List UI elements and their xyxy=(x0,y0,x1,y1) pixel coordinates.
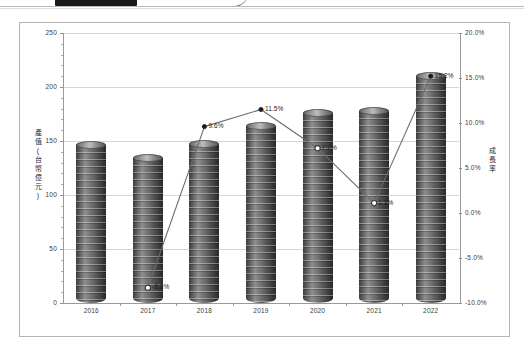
y-axis-left-minor-tick xyxy=(61,163,63,164)
x-axis-label-2020: 2020 xyxy=(296,307,340,314)
title-char: 長 xyxy=(486,155,498,164)
title-char: 幣 xyxy=(32,164,44,173)
y-axis-left-minor-tick xyxy=(61,184,63,185)
y-axis-left-tick xyxy=(60,195,63,196)
y-axis-left-tick xyxy=(60,141,63,142)
horizontal-rule xyxy=(0,6,524,7)
title-char: 值 xyxy=(32,137,44,146)
y-axis-right-tick-label: 0.0% xyxy=(465,209,505,216)
data-label-2019: 11.5% xyxy=(265,105,283,112)
y-axis-left-tick-label: 200 xyxy=(23,83,57,90)
x-axis-tick xyxy=(289,303,290,306)
x-axis-label-2017: 2017 xyxy=(126,307,170,314)
data-label-2021: 1.1% xyxy=(378,199,393,206)
y-axis-left-tick xyxy=(60,249,63,250)
y-axis-left-minor-tick xyxy=(61,152,63,153)
title-char: ) xyxy=(32,191,44,200)
data-label-2020: 7.2% xyxy=(322,144,337,151)
y-axis-left-minor-tick xyxy=(61,119,63,120)
x-axis-tick xyxy=(346,303,347,306)
x-axis-tick xyxy=(120,303,121,306)
x-axis-label-2016: 2016 xyxy=(69,307,113,314)
y-axis-left-minor-tick xyxy=(61,206,63,207)
y-axis-left-minor-tick xyxy=(61,98,63,99)
y-axis-right-tick-label: 20.0% xyxy=(465,29,505,36)
horizontal-rule-shadow xyxy=(0,8,524,9)
y-axis-right-tick xyxy=(459,303,462,304)
y-axis-left-minor-tick xyxy=(61,238,63,239)
x-axis-label-2019: 2019 xyxy=(239,307,283,314)
x-axis-tick xyxy=(176,303,177,306)
y-axis-left-minor-tick xyxy=(61,281,63,282)
title-char: 產 xyxy=(32,128,44,137)
y-axis-left-minor-tick xyxy=(61,292,63,293)
y-axis-left-minor-tick xyxy=(61,130,63,131)
y-axis-left-minor-tick xyxy=(61,271,63,272)
y-axis-left-minor-tick xyxy=(61,109,63,110)
y-axis-right-tick xyxy=(459,78,462,79)
y-axis-right-tick xyxy=(459,123,462,124)
title-char: 元 xyxy=(32,182,44,191)
y-axis-left-tick xyxy=(60,87,63,88)
y-axis-right-title: 成長率 xyxy=(486,146,498,173)
y-axis-left-tick-label: 50 xyxy=(23,245,57,252)
title-char: 成 xyxy=(486,146,498,155)
title-char: 億 xyxy=(32,173,44,182)
data-label-2018: 9.6% xyxy=(208,122,223,129)
y-axis-right-tick xyxy=(459,213,462,214)
y-axis-right-tick-label: 15.0% xyxy=(465,74,505,81)
x-axis-tick xyxy=(233,303,234,306)
title-char: 率 xyxy=(486,164,498,173)
y-axis-left-minor-tick xyxy=(61,173,63,174)
y-axis-left-tick-label: 250 xyxy=(23,29,57,36)
gridline xyxy=(63,303,459,304)
chart-screenshot: -8.3%9.6%11.5%7.2%1.1%15.2% 250200150100… xyxy=(0,0,524,352)
data-label-layer: -8.3%9.6%11.5%7.2%1.1%15.2% xyxy=(63,33,459,303)
data-label-2017: -8.3% xyxy=(152,283,169,290)
x-axis-label-2018: 2018 xyxy=(182,307,226,314)
y-axis-right-tick-label: 10.0% xyxy=(465,119,505,126)
title-char: 台 xyxy=(32,155,44,164)
y-axis-left-minor-tick xyxy=(61,55,63,56)
y-axis-left-tick xyxy=(60,33,63,34)
y-axis-right-tick-label: -5.0% xyxy=(465,254,505,261)
x-axis-tick xyxy=(402,303,403,306)
y-axis-left-title: 產值(台幣億元) xyxy=(32,128,44,200)
y-axis-left-minor-tick xyxy=(61,65,63,66)
y-axis-left-tick-label: 0 xyxy=(23,299,57,306)
y-axis-left-minor-tick xyxy=(61,227,63,228)
y-axis-left-minor-tick xyxy=(61,217,63,218)
top-cropped-ui-strip xyxy=(0,0,524,16)
y-axis-left-tick xyxy=(60,303,63,304)
y-axis-left-minor-tick xyxy=(61,44,63,45)
x-axis-label-2021: 2021 xyxy=(352,307,396,314)
y-axis-right-tick-label: -10.0% xyxy=(465,299,505,306)
y-axis-left-minor-tick xyxy=(61,260,63,261)
y-axis-right-tick-label: 5.0% xyxy=(465,164,505,171)
title-char: ( xyxy=(32,146,44,155)
y-axis-right-tick xyxy=(459,258,462,259)
x-axis-label-2022: 2022 xyxy=(409,307,453,314)
y-axis-right-tick xyxy=(459,33,462,34)
y-axis-right-tick xyxy=(459,168,462,169)
y-axis-left-minor-tick xyxy=(61,76,63,77)
data-label-2022: 15.2% xyxy=(435,72,454,79)
